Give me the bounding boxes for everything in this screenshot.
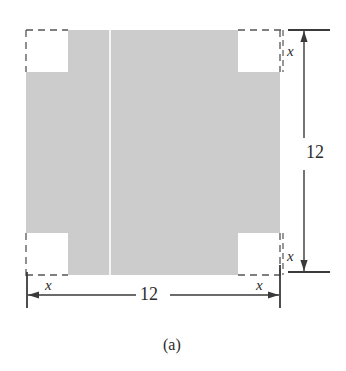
- geometry-diagram-svg: [0, 0, 346, 371]
- shaded-region: [26, 30, 280, 275]
- label-side-12-bottom: 12: [140, 285, 158, 303]
- label-corner-x-top-right: x: [287, 44, 294, 59]
- figure-container: x 12 x x 12 x (a): [0, 0, 346, 371]
- label-side-12-right: 12: [306, 143, 324, 161]
- label-corner-x-bottom-left: x: [45, 278, 52, 293]
- label-corner-x-bottom-right-2: x: [256, 278, 263, 293]
- figure-caption: (a): [163, 337, 181, 353]
- label-corner-x-bottom-right: x: [287, 249, 294, 264]
